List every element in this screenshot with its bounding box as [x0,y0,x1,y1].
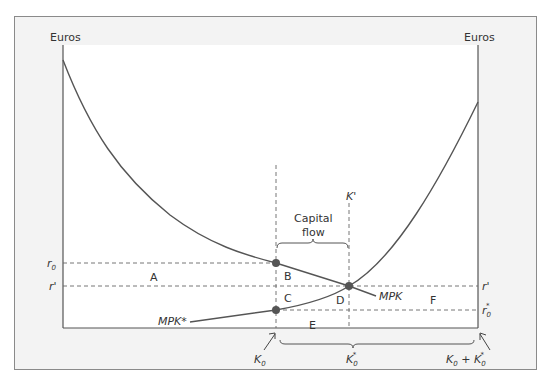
r0-label: r0 [47,257,57,272]
area-c-label: C [284,292,292,305]
r0-star-label: r0* [482,302,492,319]
k0-star-label: K0* [346,351,358,368]
point-equilibrium [345,282,353,290]
right-axis-label: Euros [464,31,495,44]
k-prime-label: K' [346,190,356,203]
capital-flow-label-line2: flow [302,226,325,239]
capital-flow-label-line1: Capital [294,212,333,225]
point-home-initial [272,259,280,267]
r-prime-left-label: r' [49,280,57,293]
area-b-label: B [284,270,292,283]
capital-flow-diagram: Euros Euros MPK MPK* r0 r' r' r0* A B C … [0,0,553,388]
k0-arrow [264,334,275,350]
mpk-label: MPK [379,290,403,303]
k0-star-brace [280,340,474,348]
area-a-label: A [150,271,158,284]
r-prime-right-label: r' [482,280,490,293]
point-foreign-initial [272,306,280,314]
left-axis-label: Euros [50,31,81,44]
area-d-label: D [336,294,344,307]
mpk-star-label: MPK* [158,315,187,328]
area-f-label: F [430,294,436,307]
k0-label: K0 [254,353,266,368]
k0-plus-k0-star-label: K0 + K0* [446,351,486,368]
total-arrow [480,334,490,350]
area-e-label: E [309,319,316,332]
